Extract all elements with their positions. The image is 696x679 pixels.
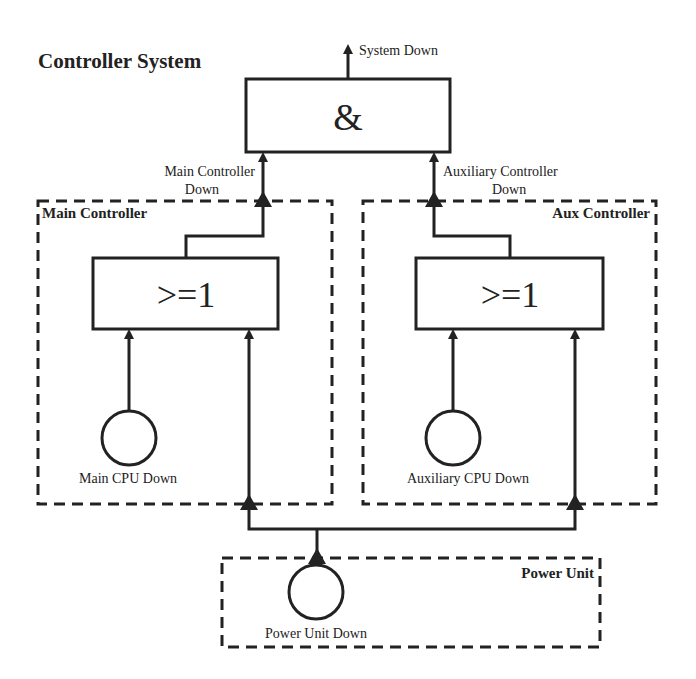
main-or-gate-symbol: >=1: [157, 275, 216, 315]
main-cpu-down-event[interactable]: [102, 411, 156, 465]
and-gate[interactable]: &: [246, 79, 450, 152]
aux-cpu-down-label: Auxiliary CPU Down: [407, 471, 529, 486]
aux-cpu-down-event[interactable]: [426, 411, 480, 465]
power-unit-down-event[interactable]: [289, 565, 343, 619]
main-cpu-down-label: Main CPU Down: [79, 471, 177, 486]
main-controller-down-label-line2: Down: [185, 182, 219, 197]
aux-cpu-connector: [448, 329, 458, 411]
aux-controller-down-label-line1: Auxiliary Controller: [443, 164, 558, 179]
and-gate-symbol: &: [333, 96, 363, 138]
main-cpu-connector: [124, 329, 134, 411]
power-bus-connector: [240, 329, 584, 565]
power-unit-down-label: Power Unit Down: [265, 626, 367, 641]
main-controller-group-label: Main Controller: [42, 205, 147, 221]
aux-or-gate-symbol: >=1: [481, 275, 540, 315]
fault-tree-diagram: Controller System System Down & Main Con…: [0, 0, 696, 679]
aux-or-gate[interactable]: >=1: [416, 258, 603, 329]
main-controller-down-label-line1: Main Controller: [164, 164, 255, 179]
top-event-arrow: [343, 44, 353, 79]
aux-controller-down-label-line2: Down: [492, 182, 526, 197]
aux-controller-group-label: Aux Controller: [552, 205, 650, 221]
diagram-title: Controller System: [38, 49, 202, 73]
main-or-gate[interactable]: >=1: [93, 258, 278, 329]
power-unit-group-label: Power Unit: [521, 565, 594, 581]
top-event-label: System Down: [359, 43, 438, 58]
